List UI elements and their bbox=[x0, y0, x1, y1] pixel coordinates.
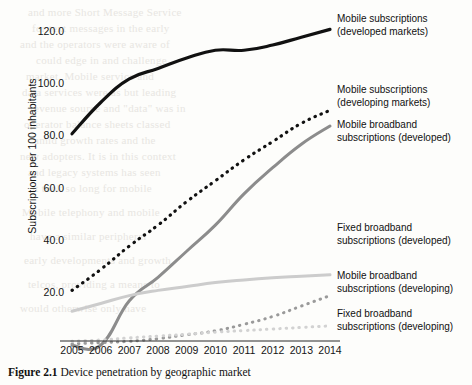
figure-caption: Figure 2.1 Device penetration by geograp… bbox=[8, 366, 251, 378]
x-tick-label: 2010 bbox=[200, 344, 230, 356]
series-line-1 bbox=[72, 110, 330, 290]
legend-label-mobile-broadband-developing: Mobile broadband subscriptions (developi… bbox=[337, 270, 453, 295]
x-tick-label: 2006 bbox=[86, 344, 116, 356]
series-line-2 bbox=[72, 126, 330, 350]
x-tick-label: 2005 bbox=[57, 344, 87, 356]
x-tick-label: 2007 bbox=[114, 344, 144, 356]
figure-caption-text: Device penetration by geographic market bbox=[61, 366, 251, 378]
figure-container: and more Short Message Service for text … bbox=[0, 0, 472, 385]
series-line-0 bbox=[72, 29, 330, 133]
x-tick-label: 2008 bbox=[143, 344, 173, 356]
legend-label-mobile-broadband-developed: Mobile broadband subscriptions (develope… bbox=[337, 119, 451, 144]
figure-number: Figure 2.1 bbox=[8, 366, 58, 378]
legend-label-mobile-developed: Mobile subscriptions (developed markets) bbox=[337, 13, 428, 38]
series-line-3 bbox=[72, 275, 330, 312]
x-tick-label: 2012 bbox=[258, 344, 288, 356]
x-tick-label: 2011 bbox=[229, 344, 259, 356]
x-tick-label: 2009 bbox=[172, 344, 202, 356]
legend-label-fixed-broadband-developing: Fixed broadband subscriptions (developin… bbox=[337, 308, 453, 333]
series-line-4 bbox=[72, 296, 330, 344]
x-tick-label: 2014 bbox=[315, 344, 345, 356]
legend-label-fixed-broadband-developed: Fixed broadband subscriptions (developed… bbox=[337, 222, 451, 247]
x-tick-label: 2013 bbox=[286, 344, 316, 356]
legend-label-mobile-developing: Mobile subscriptions (developing markets… bbox=[337, 84, 430, 109]
